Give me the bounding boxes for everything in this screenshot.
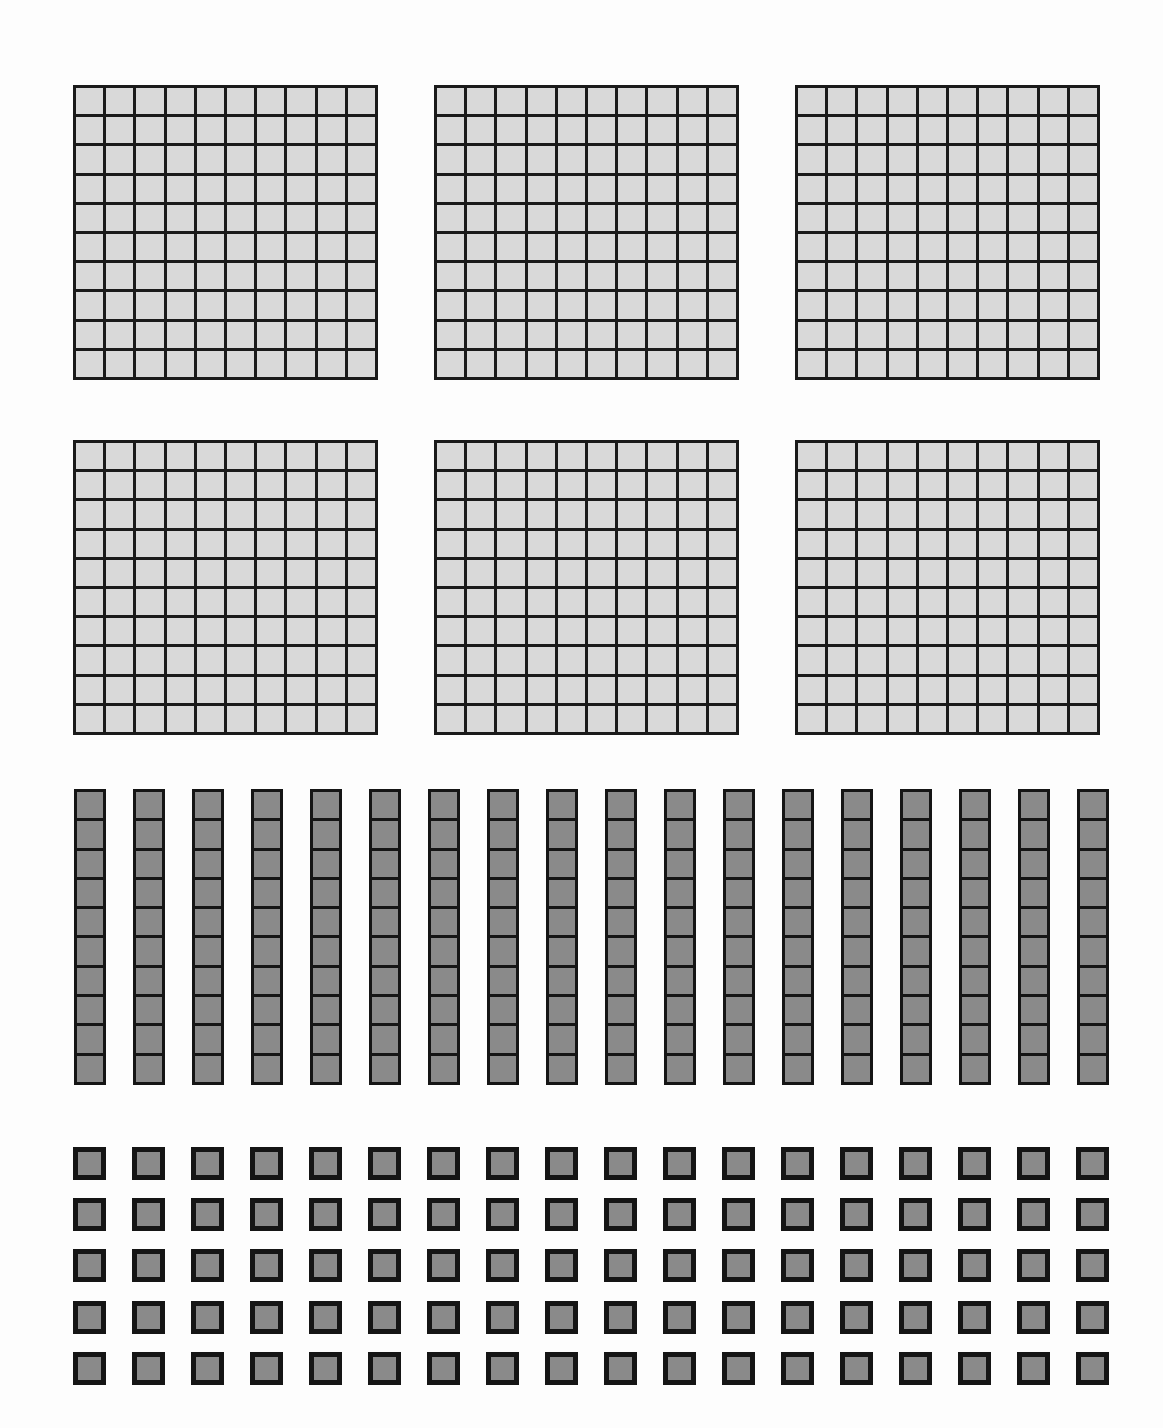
ones-unit-cube[interactable] — [309, 1198, 342, 1231]
ones-unit-cube[interactable] — [899, 1249, 932, 1282]
ones-unit-cube[interactable] — [781, 1301, 814, 1334]
ones-unit-cube[interactable] — [840, 1147, 873, 1180]
ones-unit-cube[interactable] — [1017, 1198, 1050, 1231]
ones-unit-cube[interactable] — [781, 1147, 814, 1180]
tens-rod[interactable] — [74, 789, 106, 1085]
hundreds-flat[interactable] — [795, 85, 1100, 380]
tens-rod[interactable] — [664, 789, 696, 1085]
ones-unit-cube[interactable] — [1076, 1198, 1109, 1231]
ones-unit-cube[interactable] — [1076, 1249, 1109, 1282]
ones-unit-cube[interactable] — [309, 1147, 342, 1180]
ones-unit-cube[interactable] — [309, 1301, 342, 1334]
hundreds-flat[interactable] — [795, 440, 1100, 735]
ones-unit-cube[interactable] — [1017, 1352, 1050, 1385]
ones-unit-cube[interactable] — [1017, 1147, 1050, 1180]
ones-unit-cube[interactable] — [663, 1147, 696, 1180]
ones-unit-cube[interactable] — [545, 1147, 578, 1180]
ones-unit-cube[interactable] — [899, 1147, 932, 1180]
hundreds-flat[interactable] — [73, 85, 378, 380]
ones-unit-cube[interactable] — [191, 1301, 224, 1334]
ones-unit-cube[interactable] — [309, 1352, 342, 1385]
ones-unit-cube[interactable] — [1076, 1147, 1109, 1180]
ones-unit-cube[interactable] — [604, 1249, 637, 1282]
ones-unit-cube[interactable] — [1076, 1352, 1109, 1385]
ones-unit-cube[interactable] — [486, 1147, 519, 1180]
ones-unit-cube[interactable] — [427, 1352, 460, 1385]
ones-unit-cube[interactable] — [781, 1352, 814, 1385]
tens-rod[interactable] — [251, 789, 283, 1085]
ones-unit-cube[interactable] — [427, 1198, 460, 1231]
ones-unit-cube[interactable] — [958, 1147, 991, 1180]
ones-unit-cube[interactable] — [427, 1301, 460, 1334]
ones-unit-cube[interactable] — [73, 1249, 106, 1282]
ones-unit-cube[interactable] — [604, 1301, 637, 1334]
ones-unit-cube[interactable] — [958, 1301, 991, 1334]
ones-unit-cube[interactable] — [486, 1198, 519, 1231]
tens-rod[interactable] — [782, 789, 814, 1085]
ones-unit-cube[interactable] — [722, 1147, 755, 1180]
ones-unit-cube[interactable] — [368, 1352, 401, 1385]
ones-unit-cube[interactable] — [899, 1352, 932, 1385]
ones-unit-cube[interactable] — [722, 1352, 755, 1385]
ones-unit-cube[interactable] — [132, 1352, 165, 1385]
ones-unit-cube[interactable] — [486, 1249, 519, 1282]
ones-unit-cube[interactable] — [840, 1249, 873, 1282]
ones-unit-cube[interactable] — [781, 1198, 814, 1231]
ones-unit-cube[interactable] — [250, 1249, 283, 1282]
ones-unit-cube[interactable] — [899, 1301, 932, 1334]
ones-unit-cube[interactable] — [545, 1352, 578, 1385]
ones-unit-cube[interactable] — [250, 1198, 283, 1231]
tens-rod[interactable] — [546, 789, 578, 1085]
ones-unit-cube[interactable] — [250, 1352, 283, 1385]
tens-rod[interactable] — [310, 789, 342, 1085]
ones-unit-cube[interactable] — [73, 1352, 106, 1385]
tens-rod[interactable] — [192, 789, 224, 1085]
ones-unit-cube[interactable] — [73, 1198, 106, 1231]
tens-rod[interactable] — [900, 789, 932, 1085]
ones-unit-cube[interactable] — [663, 1301, 696, 1334]
ones-unit-cube[interactable] — [132, 1249, 165, 1282]
ones-unit-cube[interactable] — [191, 1147, 224, 1180]
ones-unit-cube[interactable] — [486, 1301, 519, 1334]
ones-unit-cube[interactable] — [958, 1198, 991, 1231]
hundreds-flat[interactable] — [434, 440, 739, 735]
ones-unit-cube[interactable] — [309, 1249, 342, 1282]
ones-unit-cube[interactable] — [958, 1352, 991, 1385]
ones-unit-cube[interactable] — [663, 1249, 696, 1282]
ones-unit-cube[interactable] — [368, 1147, 401, 1180]
ones-unit-cube[interactable] — [427, 1147, 460, 1180]
ones-unit-cube[interactable] — [840, 1198, 873, 1231]
ones-unit-cube[interactable] — [427, 1249, 460, 1282]
tens-rod[interactable] — [428, 789, 460, 1085]
ones-unit-cube[interactable] — [781, 1249, 814, 1282]
ones-unit-cube[interactable] — [191, 1249, 224, 1282]
tens-rod[interactable] — [1077, 789, 1109, 1085]
ones-unit-cube[interactable] — [545, 1249, 578, 1282]
ones-unit-cube[interactable] — [250, 1301, 283, 1334]
ones-unit-cube[interactable] — [132, 1198, 165, 1231]
ones-unit-cube[interactable] — [604, 1198, 637, 1231]
ones-unit-cube[interactable] — [545, 1198, 578, 1231]
tens-rod[interactable] — [841, 789, 873, 1085]
ones-unit-cube[interactable] — [250, 1147, 283, 1180]
ones-unit-cube[interactable] — [663, 1198, 696, 1231]
ones-unit-cube[interactable] — [73, 1301, 106, 1334]
ones-unit-cube[interactable] — [722, 1249, 755, 1282]
ones-unit-cube[interactable] — [191, 1198, 224, 1231]
ones-unit-cube[interactable] — [1076, 1301, 1109, 1334]
ones-unit-cube[interactable] — [1017, 1301, 1050, 1334]
tens-rod[interactable] — [1018, 789, 1050, 1085]
tens-rod[interactable] — [369, 789, 401, 1085]
tens-rod[interactable] — [605, 789, 637, 1085]
ones-unit-cube[interactable] — [73, 1147, 106, 1180]
ones-unit-cube[interactable] — [899, 1198, 932, 1231]
tens-rod[interactable] — [133, 789, 165, 1085]
ones-unit-cube[interactable] — [840, 1301, 873, 1334]
ones-unit-cube[interactable] — [486, 1352, 519, 1385]
ones-unit-cube[interactable] — [958, 1249, 991, 1282]
ones-unit-cube[interactable] — [663, 1352, 696, 1385]
tens-rod[interactable] — [723, 789, 755, 1085]
hundreds-flat[interactable] — [434, 85, 739, 380]
ones-unit-cube[interactable] — [722, 1301, 755, 1334]
ones-unit-cube[interactable] — [840, 1352, 873, 1385]
